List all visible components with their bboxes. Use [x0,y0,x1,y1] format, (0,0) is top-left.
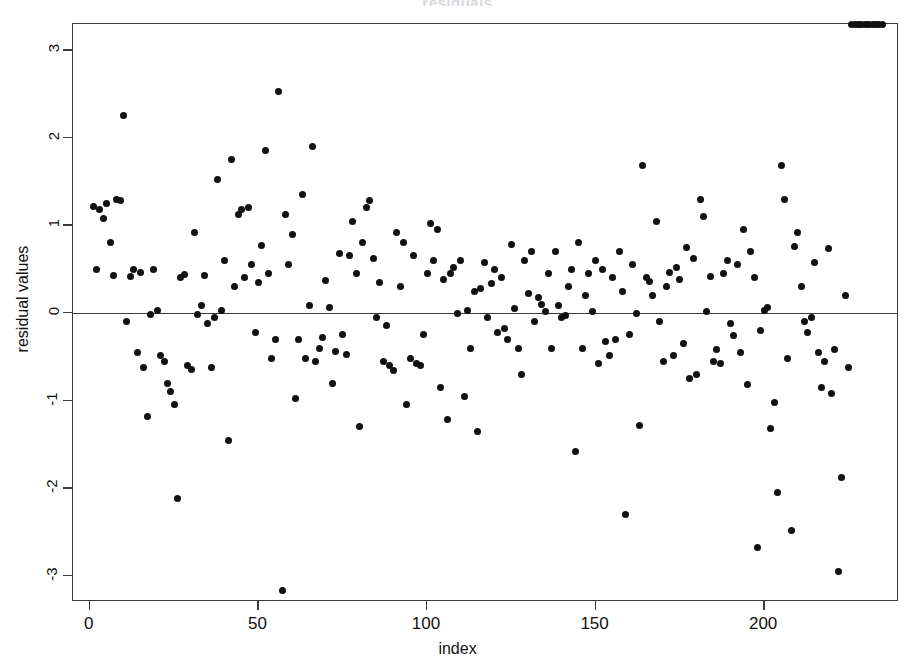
data-point [430,257,437,264]
y-axis-tick-label-text: 2 [47,132,61,140]
data-point [612,336,619,343]
data-point [656,318,663,325]
data-point [181,271,188,278]
data-point [676,276,683,283]
data-point [646,278,653,285]
y-axis-tick-label: 0 [18,304,58,318]
data-point [248,261,255,268]
data-point [680,340,687,347]
data-point [302,355,309,362]
data-point [161,358,168,365]
data-point [528,248,535,255]
x-axis-tick [426,601,427,610]
data-point [316,345,323,352]
data-point [359,239,366,246]
data-point [842,292,849,299]
data-point [164,380,171,387]
plot-title: residuals [0,0,915,6]
y-axis-tick [63,487,72,488]
data-point [268,355,275,362]
data-point [400,239,407,246]
data-point [393,229,400,236]
y-axis-tick-label-text: -2 [44,479,58,492]
data-point [343,351,350,358]
residual-scatter-plot: residuals residual values -3-2-10123 050… [0,0,915,663]
data-point [828,390,835,397]
data-point [670,352,677,359]
data-point [231,283,238,290]
data-point [498,274,505,281]
data-point [208,364,215,371]
data-point [383,322,390,329]
data-point [123,318,130,325]
y-axis-tick [63,49,72,50]
data-point [211,314,218,321]
data-point [663,283,670,290]
data-point [474,428,481,435]
data-point [626,331,633,338]
data-point [838,474,845,481]
data-point [697,196,704,203]
data-point [461,393,468,400]
data-point [221,257,228,264]
data-point [683,244,690,251]
data-point [110,272,117,279]
data-point [572,448,579,455]
x-axis-tick-label: 150 [565,614,625,634]
data-point [481,259,488,266]
data-point [713,346,720,353]
data-point [488,280,495,287]
data-point [831,346,838,353]
data-point [629,261,636,268]
data-point [457,257,464,264]
data-point [535,294,542,301]
data-point [339,331,346,338]
x-axis-tick-label: 200 [733,614,793,634]
data-point [437,384,444,391]
data-point [201,272,208,279]
data-point [660,358,667,365]
data-point [218,307,225,314]
data-point [241,274,248,281]
data-point [808,314,815,321]
data-point [781,196,788,203]
data-point [734,261,741,268]
data-point [167,388,174,395]
x-axis-tick-label: 50 [227,614,287,634]
x-axis-tick [595,601,596,610]
y-axis-tick [63,137,72,138]
data-point [174,495,181,502]
data-point [515,345,522,352]
data-point [275,88,282,95]
data-point [494,329,501,336]
data-point [784,355,791,362]
data-point [282,211,289,218]
data-point [740,226,747,233]
data-point [96,206,103,213]
data-point [191,229,198,236]
data-point [555,302,562,309]
data-point [346,252,353,259]
data-point [336,250,343,257]
y-axis-tick-label: 1 [18,216,58,230]
data-point [454,310,461,317]
data-point [326,304,333,311]
data-point [137,269,144,276]
data-point [525,290,532,297]
data-point [771,399,778,406]
data-point [376,279,383,286]
data-point [616,248,623,255]
data-point [538,301,545,308]
data-point [673,264,680,271]
data-point [693,371,700,378]
data-point [744,381,751,388]
data-point [754,544,761,551]
data-point [403,401,410,408]
data-point [265,270,272,277]
data-point [424,270,431,277]
x-axis-tick [257,601,258,610]
data-point [309,143,316,150]
data-point [821,358,828,365]
y-axis-tick-label-text: 1 [47,219,61,227]
data-point [595,360,602,367]
